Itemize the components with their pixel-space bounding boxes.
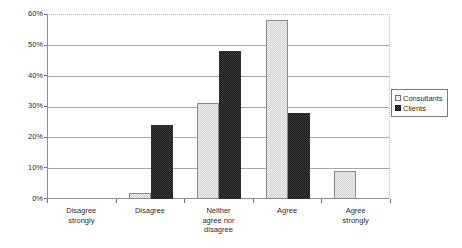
x-category-label-agree: Agree [253,206,321,216]
bar-group-agree [253,14,322,199]
bar-clients-agree[interactable] [288,113,310,199]
bar-chart: 60% 50% 40% 30% 20% 10% 0% [0,0,462,248]
y-tick-label-40: 40% [5,72,43,80]
x-category-line: Agree [322,206,390,216]
bar-consultants-neither[interactable] [197,103,219,199]
x-category-line: Agree [253,206,321,216]
bar-group-disagree-strongly [47,14,116,199]
y-tick-label-20: 20% [5,133,43,141]
bars-layer [47,14,390,199]
x-category-label-disagree-strongly: Disagree strongly [47,206,115,225]
chart-legend: Consultants Clients [391,89,448,117]
x-category-line: strongly [322,216,390,226]
x-category-line: disagree [185,225,253,235]
bar-consultants-agree-strongly[interactable] [334,171,356,199]
legend-item-consultants[interactable]: Consultants [395,93,443,103]
y-tick-label-60: 60% [5,10,43,18]
bar-clients-neither[interactable] [219,51,241,199]
x-category-line: Disagree [116,206,184,216]
legend-swatch-clients-icon [395,105,401,111]
x-tick-mark-2 [184,199,185,203]
bar-consultants-agree[interactable] [266,20,288,199]
y-tick-label-50: 50% [5,41,43,49]
legend-label-consultants: Consultants [403,94,443,103]
x-tick-mark-3 [253,199,254,203]
bar-group-disagree [116,14,185,199]
x-category-line: Neither [185,206,253,216]
bar-group-neither-agree-nor-disagree [184,14,253,199]
y-tick-label-10: 10% [5,164,43,172]
bar-clients-disagree[interactable] [151,125,173,199]
x-tick-mark-1 [116,199,117,203]
x-category-line: Disagree [47,206,115,216]
x-tick-mark-5 [390,199,391,203]
x-tick-mark-0 [47,199,48,203]
bar-group-agree-strongly [321,14,390,199]
x-category-label-neither: Neither agree nor disagree [185,206,253,235]
y-tick-label-30: 30% [5,102,43,110]
legend-label-clients: Clients [403,104,426,113]
x-category-label-agree-strongly: Agree strongly [322,206,390,225]
x-category-line: agree nor [185,216,253,226]
bar-consultants-disagree[interactable] [129,193,151,199]
legend-swatch-consultants-icon [395,95,401,101]
legend-item-clients[interactable]: Clients [395,103,443,113]
x-tick-mark-4 [321,199,322,203]
y-tick-label-0: 0% [5,195,43,203]
x-category-line: strongly [47,216,115,226]
x-category-label-disagree: Disagree [116,206,184,216]
